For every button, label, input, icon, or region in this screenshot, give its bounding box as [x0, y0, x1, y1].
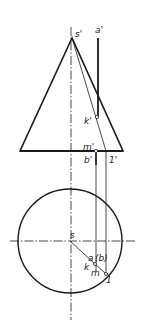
- label-k: k: [84, 262, 90, 272]
- point-k-prime: [95, 115, 98, 118]
- point-m-prime: [94, 149, 97, 152]
- label-k-prime: k': [84, 116, 92, 126]
- top-view: [10, 189, 135, 293]
- label-s-prime: s': [75, 29, 82, 39]
- label-b-paren: (b): [95, 253, 108, 263]
- cone-outline: [20, 38, 123, 151]
- label-m: m: [91, 268, 100, 278]
- label-a-prime: a': [95, 25, 103, 35]
- label-1: 1: [106, 275, 112, 285]
- label-b-prime: b': [84, 155, 92, 165]
- label-m-prime: m': [83, 142, 94, 152]
- label-1-prime: 1': [109, 155, 117, 165]
- label-s: s: [70, 230, 75, 240]
- cone-projection-diagram: s' a' k' m' b' 1' s a (b) k m 1: [0, 0, 143, 320]
- generatrix-s1: [72, 38, 106, 151]
